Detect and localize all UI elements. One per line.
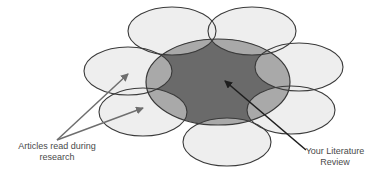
review-label: Your Literature Review <box>298 146 372 168</box>
review-label-line1: Your Literature <box>298 146 372 157</box>
review-label-line2: Review <box>298 157 372 168</box>
articles-label: Articles read during research <box>8 141 106 163</box>
articles-label-line2: research <box>8 152 106 163</box>
articles-label-line1: Articles read during <box>8 141 106 152</box>
